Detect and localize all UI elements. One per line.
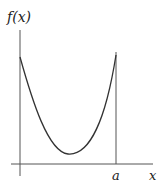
function-curve [20, 55, 116, 154]
endpoint-label-a: a [112, 168, 120, 183]
x-axis-label: x [149, 168, 157, 183]
y-axis-label: f(x) [6, 9, 31, 25]
function-plot: f(x) a x [0, 0, 166, 184]
